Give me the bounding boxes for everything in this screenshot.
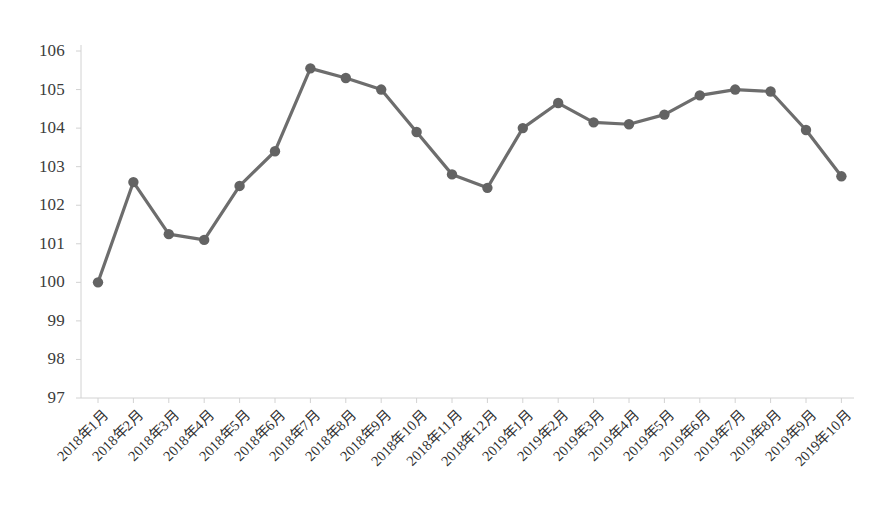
data-point-marker [695,90,705,100]
series-line [98,68,841,282]
data-point-marker [730,84,740,94]
data-point-marker [482,183,492,193]
data-point-marker [376,84,386,94]
data-point-marker [553,98,563,108]
chart-axes [76,45,854,403]
data-point-marker [93,277,103,287]
data-point-marker [199,235,209,245]
data-point-marker [518,123,528,133]
data-point-marker [411,127,421,137]
data-point-marker [270,146,280,156]
data-point-marker [659,109,669,119]
data-point-marker [305,63,315,73]
data-point-marker [234,181,244,191]
data-point-marker [341,73,351,83]
data-point-marker [128,177,138,187]
data-point-marker [801,125,811,135]
data-point-markers [93,63,847,287]
data-point-marker [836,171,846,181]
data-point-marker [624,119,634,129]
data-point-marker [447,169,457,179]
data-point-marker [164,229,174,239]
data-point-marker [588,117,598,127]
data-series-line [98,68,841,282]
line-chart: 979899100101102103104105106 2018年1月2018年… [0,0,878,527]
data-point-marker [765,86,775,96]
